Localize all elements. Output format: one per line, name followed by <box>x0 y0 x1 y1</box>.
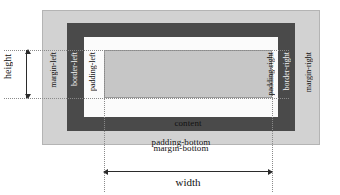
border-left-label: border-left <box>71 52 79 86</box>
content-box: content <box>104 50 272 98</box>
margin-right-label: margin-right <box>305 52 313 92</box>
padding-bottom-label: padding-bottom <box>84 138 278 147</box>
padding-left-label: padding-left <box>89 52 97 91</box>
height-label: height <box>3 54 13 79</box>
border-right-label: border-right <box>283 52 291 91</box>
height-measure-arrow <box>26 50 27 98</box>
css-box-model-diagram: margin-top margin-bottom border-top bord… <box>0 0 340 195</box>
width-measure-arrow <box>104 171 272 172</box>
width-label: width <box>104 177 272 188</box>
padding-right-label: padding-right <box>267 52 275 96</box>
content-label: content <box>105 119 271 128</box>
margin-left-label: margin-left <box>50 52 58 88</box>
